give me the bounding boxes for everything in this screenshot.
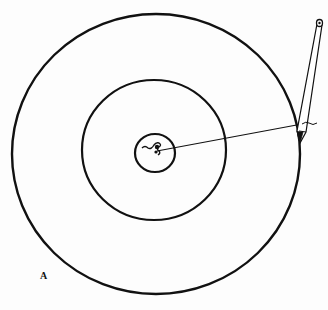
pencil-icon — [297, 20, 323, 144]
center-knot-icon — [142, 143, 161, 155]
middle-circle — [82, 80, 226, 220]
panel-label: A — [40, 270, 47, 281]
string-line — [157, 124, 302, 151]
outer-circle — [12, 14, 300, 294]
concentric-circles-diagram — [0, 0, 328, 310]
